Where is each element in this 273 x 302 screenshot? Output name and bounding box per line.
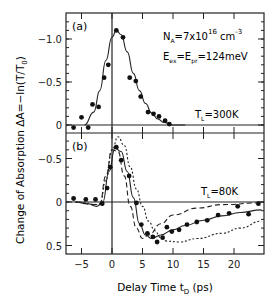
data-point	[145, 231, 150, 236]
panel-label-a: (a)	[72, 20, 87, 33]
y-tick-label: 0.5	[46, 241, 62, 252]
data-point	[177, 227, 182, 232]
annotation-tl-300k: TL=300K	[194, 109, 239, 122]
x-axis-label: Delay Time tD (ps)	[117, 281, 213, 296]
annotation-na: NA=7x1016 cm-3	[163, 28, 242, 44]
x-tick-label: 20	[228, 259, 241, 270]
data-point	[138, 94, 143, 99]
data-point	[71, 196, 76, 201]
data-point	[160, 235, 165, 240]
data-point	[155, 240, 160, 245]
data-point	[194, 220, 199, 225]
data-point	[169, 229, 174, 234]
data-point	[96, 105, 101, 110]
data-point	[127, 174, 132, 179]
data-point	[86, 125, 91, 130]
y-tick-label: −0.5	[38, 77, 62, 88]
data-point	[165, 225, 170, 230]
data-point	[108, 165, 113, 170]
chart-canvas: −1.0−0.50−0.500.5−505101520 (a) (b) NA=7…	[0, 0, 273, 302]
data-point	[216, 213, 221, 218]
data-point	[100, 201, 105, 206]
data-point	[83, 197, 88, 202]
data-point	[205, 218, 210, 223]
y-tick-label: 0	[56, 197, 62, 208]
data-point	[235, 204, 240, 209]
data-point	[106, 62, 111, 67]
data-point	[151, 111, 156, 116]
tick-labels: −1.0−0.50−0.500.5−505101520	[38, 34, 241, 270]
data-point	[114, 28, 119, 33]
data-point	[227, 211, 232, 216]
data-point	[93, 197, 98, 202]
annotation-tl-80k: TL=80K	[200, 186, 239, 199]
y-tick-label: −1.0	[38, 34, 62, 45]
data-point	[134, 201, 139, 206]
y-axis-label: Change of Absorption ΔA=−ln(T/T0)	[14, 56, 29, 244]
panel-label-b: (b)	[72, 140, 88, 153]
data-point	[146, 110, 151, 115]
data-point	[139, 222, 144, 227]
data-point	[167, 122, 172, 127]
data-point	[114, 145, 119, 150]
x-tick-label: 10	[167, 259, 180, 270]
data-point	[163, 118, 168, 123]
y-tick-label: −0.5	[38, 154, 62, 165]
data-point	[79, 115, 84, 120]
annotation-energy: Eex=Epr=124meV	[163, 51, 248, 65]
x-tick-label: −5	[74, 259, 89, 270]
data-point	[157, 114, 162, 119]
data-point	[127, 75, 132, 80]
data-point	[151, 234, 156, 239]
data-point	[105, 186, 110, 191]
data-point	[133, 79, 138, 84]
data-point	[102, 75, 107, 80]
fit-curve	[85, 30, 186, 125]
x-tick-label: 0	[109, 259, 115, 270]
y-tick-label: 0	[56, 120, 62, 131]
x-tick-label: 5	[139, 259, 145, 270]
x-tick-label: 15	[197, 259, 210, 270]
data-point	[119, 158, 124, 163]
data-point	[246, 212, 251, 217]
data-point	[71, 125, 76, 130]
data-point	[90, 102, 95, 107]
data-point	[121, 35, 126, 40]
data-point	[256, 201, 261, 206]
data-point	[185, 222, 190, 227]
